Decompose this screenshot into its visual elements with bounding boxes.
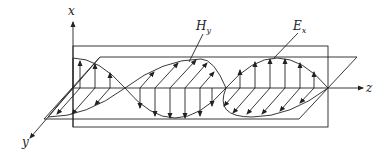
- h-field-label: Hy: [196, 20, 211, 35]
- wave-diagram: [0, 0, 388, 151]
- xz-plane-frame: [73, 46, 328, 127]
- e-field-arrows: [80, 59, 314, 118]
- y-axis-label: y: [22, 136, 29, 148]
- z-axis-label: z: [366, 82, 372, 94]
- x-axis-label: x: [68, 5, 75, 17]
- h-label-leader: [189, 34, 203, 62]
- e-field-label: Ex: [293, 20, 306, 35]
- y-axis: [30, 57, 100, 138]
- e-label-leader: [274, 33, 298, 58]
